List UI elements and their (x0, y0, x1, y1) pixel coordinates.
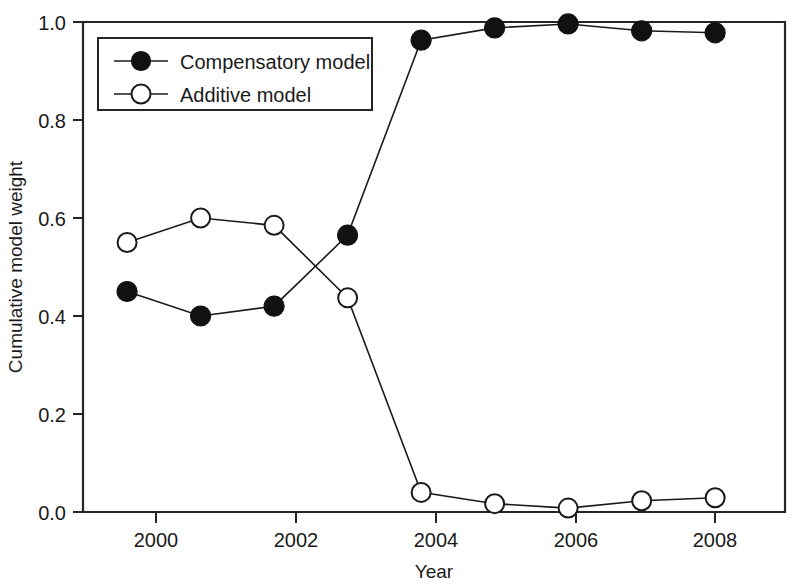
data-point-marker (265, 216, 284, 235)
y-tick-label: 0.4 (38, 306, 66, 328)
chart-legend: Compensatory model Additive model (98, 38, 372, 110)
line-chart: 1.0 0.8 0.6 0.4 0.2 0.0 2000 2002 2004 2… (0, 0, 796, 587)
data-point-marker (117, 282, 137, 302)
series-additive (118, 209, 725, 518)
y-tick-label: 0.2 (38, 404, 66, 426)
x-tick-label: 2008 (693, 529, 738, 551)
data-point-marker (485, 494, 504, 513)
y-axis-ticks: 1.0 0.8 0.6 0.4 0.2 0.0 (38, 12, 83, 524)
x-axis-ticks: 2000 2002 2004 2006 2008 (134, 512, 738, 551)
data-point-marker (118, 233, 137, 252)
y-tick-label: 1.0 (38, 12, 66, 34)
data-point-marker (338, 288, 357, 307)
data-point-marker (338, 225, 358, 245)
data-point-marker (191, 209, 210, 228)
open-circle-icon (132, 85, 151, 104)
data-point-marker (632, 21, 652, 41)
x-tick-label: 2006 (554, 529, 599, 551)
data-point-marker (705, 23, 725, 43)
x-tick-label: 2002 (274, 529, 319, 551)
legend-label: Additive model (180, 84, 311, 106)
x-tick-label: 2004 (414, 529, 459, 551)
y-tick-label: 0.0 (38, 502, 66, 524)
data-point-marker (558, 14, 578, 34)
y-axis-title: Cumulative model weight (5, 160, 26, 373)
y-tick-label: 0.6 (38, 208, 66, 230)
data-point-marker (412, 483, 431, 502)
legend-label: Compensatory model (180, 51, 370, 73)
data-point-marker (706, 488, 725, 507)
filled-circle-icon (132, 52, 151, 71)
series-line (127, 218, 715, 508)
x-axis-title: Year (415, 561, 454, 582)
data-point-marker (264, 296, 284, 316)
data-point-marker (191, 306, 211, 326)
chart-figure: 1.0 0.8 0.6 0.4 0.2 0.0 2000 2002 2004 2… (0, 0, 796, 587)
data-point-marker (411, 30, 431, 50)
legend-entry-additive: Additive model (114, 84, 311, 106)
data-point-marker (632, 491, 651, 510)
y-tick-label: 0.8 (38, 110, 66, 132)
x-tick-label: 2000 (134, 529, 179, 551)
data-point-marker (559, 499, 578, 518)
data-point-marker (485, 18, 505, 38)
